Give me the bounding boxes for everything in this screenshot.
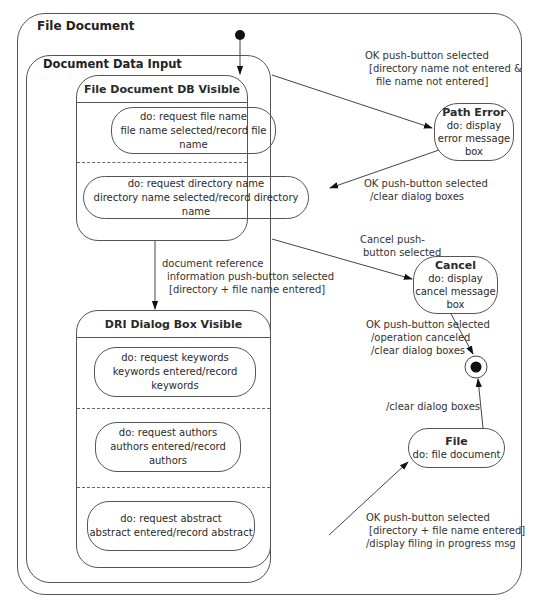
state-text: cancel message — [415, 285, 496, 298]
region-event-text: keywords entered/record keywords — [95, 365, 255, 393]
region-do-text: do: request keywords — [121, 351, 229, 365]
transition-label-to-path-error: OK push-button selected [directory name … — [365, 49, 522, 88]
region-do-text: do: request authors — [119, 426, 217, 440]
region-event-text: abstract entered/record abstract — [89, 526, 252, 540]
region-request-authors: do: request authors authors entered/reco… — [95, 422, 241, 472]
state-file-document-title: File Document — [37, 19, 135, 33]
state-cancel: Cancel do: display cancel message box — [413, 256, 498, 314]
region-event-text: directory name selected/record directory… — [84, 191, 308, 219]
state-text: box — [465, 145, 483, 158]
region-do-text: do: request abstract — [120, 512, 221, 526]
region-request-keywords: do: request keywords keywords entered/re… — [94, 347, 256, 397]
transition-label-from-path-error: OK push-button selected /clear dialog bo… — [364, 177, 488, 203]
state-text: do: display — [447, 119, 502, 132]
state-text: do: display — [428, 272, 483, 285]
region-request-abstract: do: request abstract abstract entered/re… — [87, 501, 255, 551]
region-request-file-name: do: request file name file name selected… — [111, 107, 276, 154]
state-path-error: Path Error do: display error message box — [434, 103, 514, 161]
state-path-error-title: Path Error — [442, 106, 505, 119]
state-file-document-db-visible-title: File Document DB Visible — [77, 76, 247, 103]
region-event-text: file name selected/record file name — [112, 124, 275, 152]
region-event-text: authors entered/record authors — [96, 440, 240, 468]
state-file: File do: file document — [408, 428, 505, 468]
state-text: error message — [438, 132, 510, 145]
state-document-data-input-title: Document Data Input — [43, 57, 182, 71]
transition-label-to-cancel: Cancel push- button selected — [360, 233, 441, 259]
transition-label-to-dri: document reference information push-butt… — [162, 257, 334, 296]
region-do-text: do: request file name — [140, 110, 247, 124]
state-cancel-title: Cancel — [435, 259, 476, 272]
region-do-text: do: request directory name — [128, 177, 264, 191]
region-request-directory-name: do: request directory name directory nam… — [83, 176, 309, 219]
region-divider — [77, 162, 247, 163]
transition-label-file-to-final: /clear dialog boxes — [386, 400, 480, 413]
state-text: box — [446, 298, 464, 311]
region-divider — [77, 487, 270, 488]
region-divider — [77, 408, 270, 409]
state-text: do: file document — [413, 448, 501, 461]
state-file-title: File — [445, 435, 468, 448]
transition-label-to-file: OK push-button selected [directory + fil… — [366, 511, 525, 550]
transition-label-cancel-to-final: OK push-button selected /operation cance… — [366, 318, 490, 357]
state-dri-dialog-box-visible-title: DRI Dialog Box Visible — [77, 311, 270, 338]
